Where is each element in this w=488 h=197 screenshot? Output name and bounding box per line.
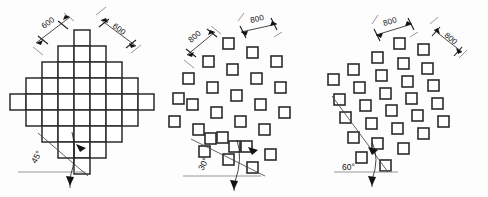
dim-label-800-right: 800	[249, 13, 265, 25]
drawing-sheet: 600 600	[0, 0, 488, 197]
lattice-tiles	[169, 38, 290, 173]
dimension-callout-right: 800	[430, 17, 467, 58]
dimension-callout-left: 800	[372, 15, 418, 41]
figure-separated-lattice-60: 800 800	[320, 0, 488, 197]
angle-label-45: 45°	[29, 149, 44, 165]
dim-label-800-left: 800	[187, 28, 204, 44]
angle-label-60: 60°	[342, 162, 355, 172]
figure-contiguous-grid-45: 600 600	[0, 0, 170, 197]
dim-label-600-left: 600	[40, 15, 57, 31]
angle-label-30: 30°	[196, 156, 211, 172]
dim-label-600-right: 600	[111, 21, 128, 37]
dimension-callout-right: 800	[238, 13, 282, 38]
lattice-tiles	[328, 38, 449, 171]
figure-separated-lattice-30: 800 800	[165, 0, 325, 197]
dim-label-800-right: 800	[443, 31, 460, 47]
dim-label-800-left: 800	[382, 15, 398, 28]
